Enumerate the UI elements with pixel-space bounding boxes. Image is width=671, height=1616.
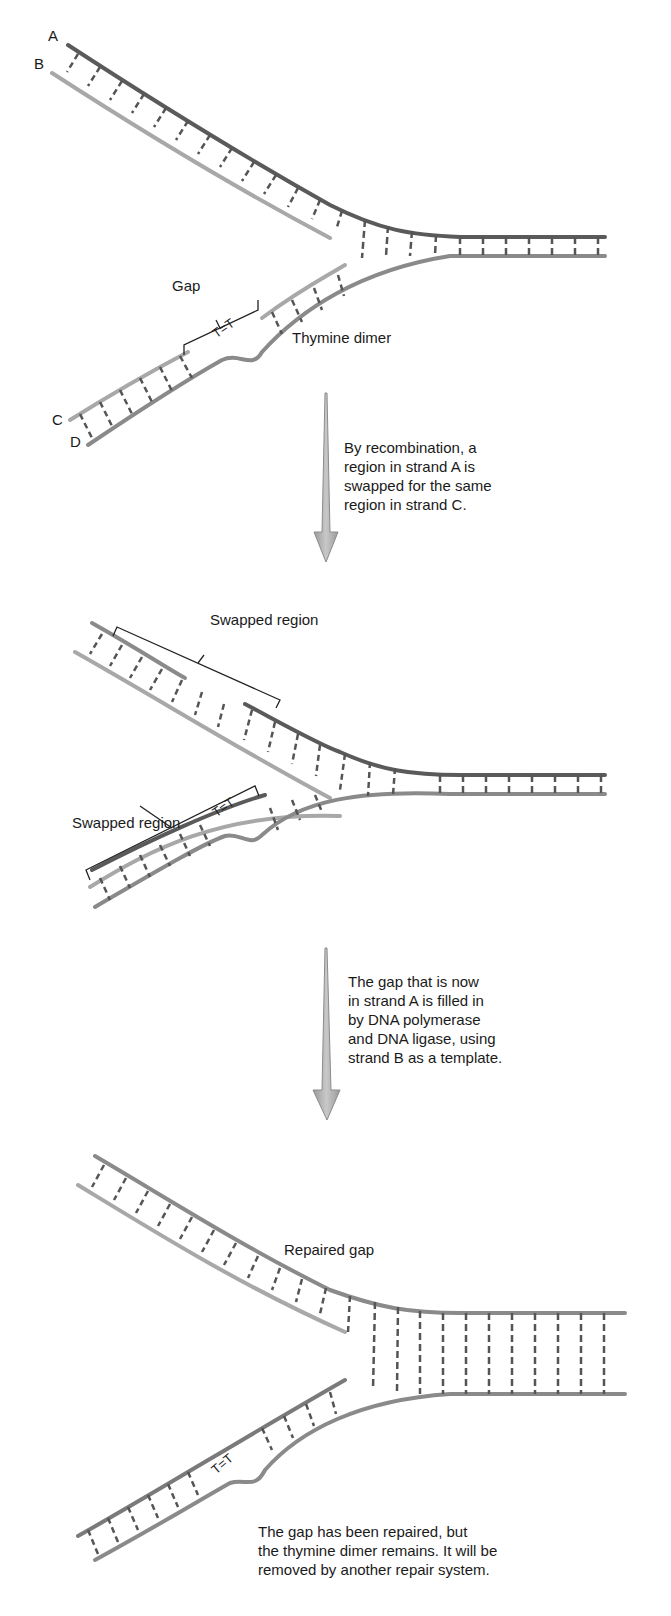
gap-label: Gap [172,276,200,295]
panel-3-dna [78,1156,625,1560]
strand-d [88,256,605,445]
step-arrow-1 [314,393,338,562]
swapped-region-label-bottom: Swapped region [72,813,180,832]
strand-label-c: C [52,410,63,429]
strand-label-d: D [70,432,81,451]
panel-1-dna [52,45,605,445]
panel-2-dna [75,623,605,907]
thymine-dimer-label: Thymine dimer [292,328,391,347]
strand-label-a: A [48,26,58,45]
dna-repair-diagram [0,0,671,1616]
step-2-caption: The gap that is now in strand A is fille… [348,972,502,1067]
step-1-caption: By recombination, a region in strand A i… [344,438,492,514]
repaired-gap-label: Repaired gap [284,1240,374,1259]
final-note: The gap has been repaired, but the thymi… [258,1522,497,1579]
swapped-region-label-top: Swapped region [210,610,318,629]
strand-c-right [262,265,345,318]
strand-b [52,73,330,238]
step-arrow-2 [313,948,340,1120]
strand-a [68,45,605,237]
strand-label-b: B [34,54,44,73]
